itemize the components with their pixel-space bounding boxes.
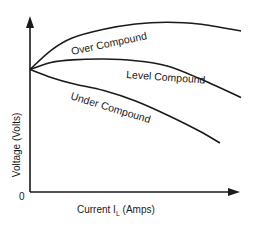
origin-label: 0 — [19, 191, 25, 202]
x-axis-label-main: Current I — [77, 204, 116, 215]
compound-generator-characteristics-chart: Over Compound Level Compound Under Compo… — [0, 0, 254, 225]
y-axis-label: Voltage (Volts) — [11, 113, 22, 177]
x-axis-label-unit: (Amps) — [120, 204, 155, 215]
x-axis-label: Current IL (Amps) — [77, 204, 155, 217]
label-over-compound: Over Compound — [70, 29, 148, 57]
x-axis-arrow-icon — [228, 188, 240, 196]
y-axis-arrow-icon — [26, 16, 34, 28]
curve-over-compound — [30, 22, 241, 69]
label-level-compound: Level Compound — [126, 68, 206, 86]
label-under-compound: Under Compound — [69, 89, 152, 125]
